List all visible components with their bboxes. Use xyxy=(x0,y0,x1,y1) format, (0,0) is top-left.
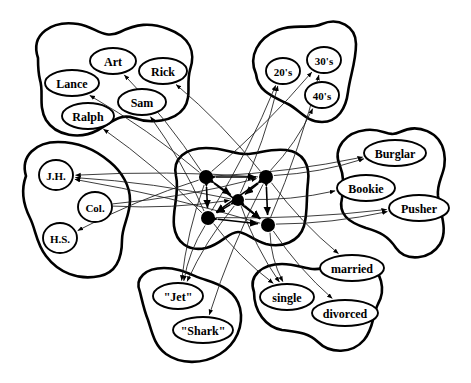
unit-jh[interactable]: J.H. xyxy=(39,160,73,190)
inner-link-inst1-inst4 xyxy=(207,187,208,208)
unit-label-col: Col. xyxy=(85,202,105,214)
unit-label-jh: J.H. xyxy=(46,170,66,182)
unit-label-single: single xyxy=(272,291,302,305)
unit-twenties[interactable]: 20's xyxy=(266,58,300,84)
unit-label-rick: Rick xyxy=(151,65,175,79)
unit-label-twenties: 20's xyxy=(274,66,293,78)
unit-label-sharks: "Shark" xyxy=(181,324,226,338)
unit-art[interactable]: Art xyxy=(90,48,136,74)
unit-label-bookie: Bookie xyxy=(348,182,384,196)
unit-inst5[interactable] xyxy=(261,218,275,232)
unit-col[interactable]: Col. xyxy=(78,192,112,222)
network-diagram: ArtRickLanceSamRalph20's30's40'sBurglarB… xyxy=(0,0,471,383)
unit-label-hs: H.S. xyxy=(50,233,70,245)
unit-sharks[interactable]: "Shark" xyxy=(173,317,233,343)
unit-hs[interactable]: H.S. xyxy=(43,223,77,253)
unit-inst2[interactable] xyxy=(259,170,273,184)
unit-rick[interactable]: Rick xyxy=(139,58,187,84)
unit-jets[interactable]: "Jet" xyxy=(153,283,203,309)
instance-node-inst3[interactable] xyxy=(232,194,244,206)
unit-label-pusher: Pusher xyxy=(401,202,438,216)
unit-divorced[interactable]: divorced xyxy=(312,300,378,326)
unit-inst3[interactable] xyxy=(232,194,244,206)
unit-label-thirties: 30's xyxy=(315,55,334,67)
instance-node-inst1[interactable] xyxy=(199,170,213,184)
unit-label-divorced: divorced xyxy=(323,307,368,321)
unit-label-sam: Sam xyxy=(131,96,154,110)
unit-single[interactable]: single xyxy=(260,284,314,310)
unit-burglar[interactable]: Burglar xyxy=(364,140,426,166)
unit-label-art: Art xyxy=(104,55,122,69)
cluster-outline-education xyxy=(23,142,130,277)
unit-label-forties: 40's xyxy=(313,90,332,102)
unit-thirties[interactable]: 30's xyxy=(307,47,341,73)
unit-label-burglar: Burglar xyxy=(375,147,416,161)
unit-inst1[interactable] xyxy=(199,170,213,184)
instance-node-inst4[interactable] xyxy=(201,211,215,225)
unit-forties[interactable]: 40's xyxy=(305,82,339,108)
unit-label-jets: "Jet" xyxy=(164,290,193,304)
unit-ralph[interactable]: Ralph xyxy=(62,103,114,129)
unit-label-ralph: Ralph xyxy=(72,110,104,124)
unit-sam[interactable]: Sam xyxy=(118,89,166,115)
unit-label-lance: Lance xyxy=(56,77,88,91)
cluster-outline-gang xyxy=(138,268,241,362)
unit-inst4[interactable] xyxy=(201,211,215,225)
instance-node-inst5[interactable] xyxy=(261,218,275,232)
unit-married[interactable]: married xyxy=(320,255,384,281)
unit-lance[interactable]: Lance xyxy=(45,70,99,96)
unit-pusher[interactable]: Pusher xyxy=(389,195,449,221)
instance-node-inst2[interactable] xyxy=(259,170,273,184)
unit-bookie[interactable]: Bookie xyxy=(337,175,395,201)
unit-label-married: married xyxy=(331,262,373,276)
network-canvas: ArtRickLanceSamRalph20's30's40'sBurglarB… xyxy=(0,0,471,383)
